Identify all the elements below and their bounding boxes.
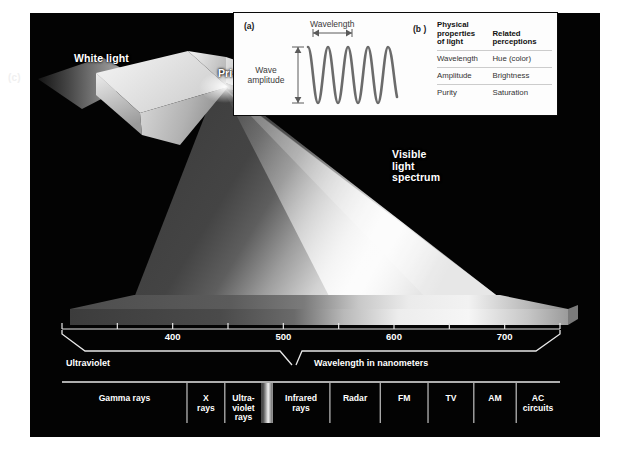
table-body: WavelengthHue (color)AmplitudeBrightness… [437, 50, 552, 101]
wavelength-label: Wavelength [310, 19, 355, 29]
wavelength-arrow-right [346, 30, 352, 37]
inset-a-wave-diagram: (a) Wavelength Wave amplitude [234, 13, 409, 115]
table-row: WavelengthHue (color) [437, 50, 552, 67]
inset-panel: (a) Wavelength Wave amplitude [234, 13, 557, 115]
inset-b-tag: (b ) [413, 24, 426, 34]
table-cell: Hue (color) [492, 50, 552, 67]
amplitude-arrow-bottom [295, 97, 302, 103]
wave-amplitude-label: Wave amplitude [238, 65, 294, 85]
em-band-label: Infrared rays [285, 394, 317, 413]
table-cell: Saturation [492, 84, 552, 101]
em-band-label: FM [398, 394, 410, 404]
spectrum-slab-side [568, 305, 578, 325]
table-column-header: Physical properties of light [437, 21, 492, 50]
em-band-label: Radar [343, 394, 367, 404]
table-cell: Wavelength [437, 50, 492, 67]
table-row: PuritySaturation [437, 84, 552, 101]
part-c-tag: (c) [8, 72, 21, 83]
ruler-tick-label: 400 [155, 331, 191, 342]
ruler-tick-label: 600 [376, 331, 412, 342]
ruler-tick-label: 500 [265, 331, 301, 342]
wavelength-arrow-left [313, 30, 319, 37]
em-band-label: X rays [197, 394, 215, 413]
table-column-header: Related perceptions [492, 21, 552, 50]
table-row: AmplitudeBrightness [437, 67, 552, 84]
em-band-label: AM [488, 394, 501, 404]
table-cell: Amplitude [437, 67, 492, 84]
em-band-label: Gamma rays [99, 394, 151, 404]
table-header-row: Physical properties of lightRelated perc… [437, 21, 552, 50]
spectrum-slab-top [70, 295, 568, 309]
em-band-label: TV [445, 394, 456, 404]
table-cell: Purity [437, 84, 492, 101]
em-band-label: Ultra- violet rays [232, 394, 254, 423]
light-properties-table: Physical properties of lightRelated perc… [437, 21, 552, 101]
inset-b-properties-table: (b ) Physical properties of lightRelated… [409, 13, 557, 115]
amplitude-arrow-top [295, 47, 302, 53]
ruler-tick-label: 700 [487, 331, 523, 342]
em-band-label: AC circuits [523, 394, 554, 413]
white-light-label: White light [74, 53, 129, 65]
ultraviolet-bracket-label: Ultraviolet [66, 358, 110, 368]
spectrum-slab-face [70, 309, 568, 325]
visible-light-spectrum-label: Visible light spectrum [392, 149, 440, 184]
table-cell: Brightness [492, 67, 552, 84]
wavelength-axis-title: Wavelength in nanometers [314, 358, 428, 368]
light-and-spectrum-figure: White light Prism Visible light spectrum [0, 0, 629, 465]
sine-wave-curve [308, 47, 397, 103]
